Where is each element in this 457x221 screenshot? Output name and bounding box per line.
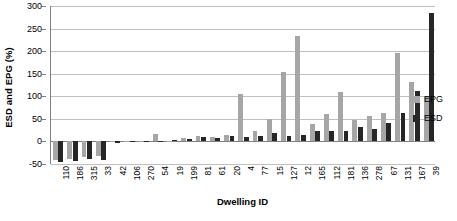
bar-esd xyxy=(244,137,249,141)
chart-legend: EPGESD xyxy=(413,94,457,132)
bar-group xyxy=(295,6,300,164)
bar-group xyxy=(187,6,192,164)
x-axis-tick-label: 186 xyxy=(75,166,85,180)
bar-esd xyxy=(287,136,292,142)
bar-group xyxy=(395,6,400,164)
bar-esd xyxy=(258,136,263,142)
bar-group xyxy=(272,6,277,164)
bar-group xyxy=(329,6,334,164)
bar-group xyxy=(53,6,58,164)
bar-epg xyxy=(281,72,286,142)
bar-group xyxy=(215,6,220,164)
y-axis-tick-mark xyxy=(42,164,46,165)
bar-epg xyxy=(181,138,186,142)
legend-item[interactable]: ESD xyxy=(413,113,457,123)
bar-epg xyxy=(82,141,87,156)
bar-esd xyxy=(329,131,334,141)
bar-epg xyxy=(381,113,386,141)
bar-epg xyxy=(153,134,158,142)
bar-epg xyxy=(338,92,343,141)
bar-esd xyxy=(87,141,92,159)
y-axis-tick-label: 200 xyxy=(27,46,42,56)
y-axis-tick-mark xyxy=(42,74,46,75)
bar-esd xyxy=(201,137,206,141)
bar-group xyxy=(424,6,429,164)
bar-epg xyxy=(67,141,72,159)
y-axis-tick-label: 300 xyxy=(27,1,42,11)
bar-esd xyxy=(344,131,349,141)
bar-group xyxy=(172,6,177,164)
bar-group xyxy=(238,6,243,164)
bar-group xyxy=(367,6,372,164)
x-axis-tick-label: 110 xyxy=(61,166,71,180)
bar-epg xyxy=(367,116,372,141)
bar-group xyxy=(130,6,135,164)
bar-esd xyxy=(58,141,63,162)
bar-esd xyxy=(101,141,106,160)
bar-group xyxy=(324,6,329,164)
y-axis-tick-mark xyxy=(42,96,46,97)
x-axis-tick-label: 315 xyxy=(89,166,99,180)
bar-epg xyxy=(324,114,329,141)
legend-swatch-icon xyxy=(413,96,420,103)
bar-group xyxy=(344,6,349,164)
bar-group xyxy=(244,6,249,164)
bar-esd xyxy=(230,136,235,141)
bar-group xyxy=(96,6,101,164)
x-axis-tick-label: 67 xyxy=(389,166,399,175)
bar-group xyxy=(358,6,363,164)
x-axis-tick-label: 19 xyxy=(175,166,185,175)
gridline xyxy=(51,164,435,165)
x-axis-tick-label: 199 xyxy=(189,166,199,180)
bar-epg xyxy=(253,131,258,141)
y-axis-title-text: ESD and EPG (%) xyxy=(3,47,14,128)
x-axis-tick-label: 54 xyxy=(160,166,170,175)
x-axis-tick-label: 136 xyxy=(360,166,370,180)
bar-esd xyxy=(372,129,377,141)
bar-group xyxy=(201,6,206,164)
x-axis-tick-label: 127 xyxy=(289,166,299,180)
x-axis-tick-labels: 1101863153342106270541919981612047715127… xyxy=(50,166,435,194)
bar-epg xyxy=(96,141,101,156)
bar-group xyxy=(196,6,201,164)
x-axis-tick-label: 4 xyxy=(246,166,256,171)
bar-group xyxy=(372,6,377,164)
bar-esd xyxy=(130,141,135,142)
x-axis-tick-label: 15 xyxy=(275,166,285,175)
y-axis-tick-label: 100 xyxy=(27,91,42,101)
bar-group xyxy=(110,6,115,164)
bar-epg xyxy=(395,53,400,141)
x-axis-tick-label: 61 xyxy=(217,166,227,175)
bar-esd xyxy=(158,141,163,142)
legend-label: EPG xyxy=(424,94,443,104)
bar-chart: ESD and EPG (%) 300250200150100500-50 11… xyxy=(0,0,457,221)
x-axis-tick-label: 181 xyxy=(346,166,356,180)
bar-esd xyxy=(115,141,120,142)
y-axis-tick-labels: 300250200150100500-50 xyxy=(14,6,46,164)
x-axis-tick-label: 77 xyxy=(260,166,270,175)
bar-group xyxy=(258,6,263,164)
bar-epg xyxy=(295,36,300,141)
y-axis-tick-mark xyxy=(42,6,46,7)
x-axis-tick-label: 270 xyxy=(146,166,156,180)
x-axis-tick-label: 42 xyxy=(118,166,128,175)
bar-epg xyxy=(224,135,229,142)
y-axis-tick-label: 150 xyxy=(27,69,42,79)
bar-esd xyxy=(358,127,363,142)
legend-swatch-icon xyxy=(413,115,420,122)
bar-group xyxy=(115,6,120,164)
bar-esd xyxy=(272,133,277,142)
legend-item[interactable]: EPG xyxy=(413,94,457,104)
x-axis-tick-label: 81 xyxy=(203,166,213,175)
bar-group xyxy=(429,6,434,164)
bar-esd xyxy=(301,135,306,142)
x-axis-tick-label: 112 xyxy=(332,166,342,180)
bar-group xyxy=(409,6,414,164)
bar-group xyxy=(415,6,420,164)
bar-group xyxy=(386,6,391,164)
bar-group xyxy=(101,6,106,164)
bar-epg xyxy=(139,141,144,142)
y-axis-tick-label: -50 xyxy=(29,159,42,169)
bar-group xyxy=(139,6,144,164)
bar-esd xyxy=(187,139,192,142)
